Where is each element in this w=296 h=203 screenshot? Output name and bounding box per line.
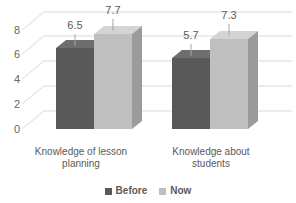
legend-label-before: Before	[116, 186, 148, 196]
y-tick-2: 2	[2, 99, 20, 110]
legend-swatch-before-icon	[105, 188, 112, 195]
data-label-now-group2: 7.3	[214, 10, 244, 21]
y-tick-0: 0	[2, 124, 20, 135]
category-label-2-line2: students	[152, 158, 270, 170]
legend-label-now: Now	[170, 186, 191, 196]
category-label-1-line2: planning	[22, 158, 140, 170]
category-label-1-line1: Knowledge of lesson	[22, 146, 140, 158]
legend-item-now[interactable]: Now	[159, 186, 191, 196]
bar-now-group1	[94, 26, 142, 129]
data-label-before-group1: 6.5	[60, 20, 90, 31]
category-label-2: Knowledge about students	[152, 146, 270, 170]
y-tick-8: 8	[2, 25, 20, 36]
data-label-now-group1: 7.7	[98, 5, 128, 16]
chart-legend: Before Now	[0, 186, 296, 196]
category-label-2-line1: Knowledge about	[152, 146, 270, 158]
legend-swatch-now-icon	[159, 188, 166, 195]
y-tick-6: 6	[2, 49, 20, 60]
plot-area	[0, 0, 296, 203]
category-label-1: Knowledge of lesson planning	[22, 146, 140, 170]
legend-item-before[interactable]: Before	[105, 186, 148, 196]
chart-container: 8 6 4 2 0 6.5 7.7 5.7 7.3 Knowledge of l…	[0, 0, 296, 203]
data-label-before-group2: 5.7	[176, 30, 206, 41]
bar-now-group2	[210, 31, 258, 129]
y-tick-4: 4	[2, 74, 20, 85]
